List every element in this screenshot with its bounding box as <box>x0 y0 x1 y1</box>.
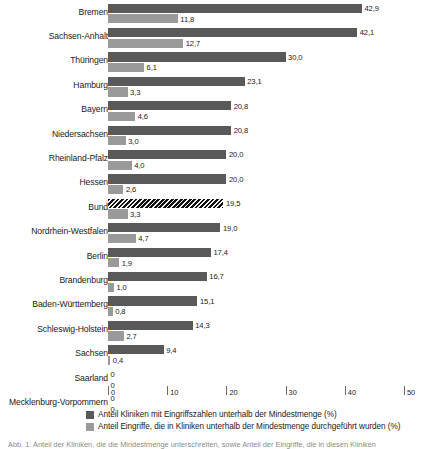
tick-label: 30 <box>289 389 297 397</box>
category-label: Bund <box>0 202 108 212</box>
category-label: Sachsen <box>0 348 108 358</box>
bar-value-label: 1,0 <box>116 283 126 292</box>
legend-label: Anteil Eingriffe, die in Kliniken unterh… <box>98 421 400 432</box>
chart-row: Sachsen9,40,4 <box>0 344 427 368</box>
bar-value-label: 3,0 <box>128 137 138 146</box>
tick-label: 50 <box>407 389 415 397</box>
bar-value-label: 20,0 <box>229 150 243 159</box>
bar-series-b <box>108 14 178 23</box>
bar-value-label: 11,8 <box>180 15 194 24</box>
tick-label: 40 <box>348 389 356 397</box>
chart-row: Nordrhein-Westfalen19,04,7 <box>0 222 427 246</box>
bar-chart: Bremen42,911,8Sachsen-Anhalt42,112,7Thür… <box>0 0 427 449</box>
bar-series-a <box>108 248 211 257</box>
bar-series-a <box>108 321 193 330</box>
tick-mark <box>108 386 109 395</box>
bar-series-a <box>108 174 226 183</box>
bar-value-label: 19,0 <box>223 224 237 233</box>
tick-label: 10 <box>170 389 178 397</box>
bar-value-label: 20,8 <box>234 102 248 111</box>
bar-series-a <box>108 345 164 354</box>
bar-value-label: 4,0 <box>134 161 144 170</box>
category-label: Saarland <box>0 373 108 383</box>
chart-row: Hessen20,02,6 <box>0 173 427 197</box>
legend-swatch-icon <box>86 411 94 419</box>
bar-series-a <box>108 52 286 61</box>
chart-row: Bund19,53,3 <box>0 197 427 221</box>
bar-series-a <box>108 28 357 37</box>
bar-value-label: 12,7 <box>186 39 200 48</box>
chart-row: Sachsen-Anhalt42,112,7 <box>0 26 427 50</box>
tick-mark <box>404 386 405 395</box>
chart-row: Berlin17,41,9 <box>0 246 427 270</box>
bar-value-label: 0 <box>111 370 115 379</box>
bar-value-label: 15,1 <box>200 297 214 306</box>
chart-row: Hamburg23,13,3 <box>0 75 427 99</box>
bar-value-label: 19,5 <box>226 199 240 208</box>
bar-series-b <box>108 283 114 292</box>
chart-row: Rheinland-Pfalz20,04,0 <box>0 148 427 172</box>
category-label: Nordrhein-Westfalen <box>0 226 108 236</box>
bar-series-b <box>108 209 128 218</box>
bar-value-label: 42,9 <box>364 4 378 13</box>
bar-series-b <box>108 87 128 96</box>
category-label: Brandenburg <box>0 275 108 285</box>
bar-series-b <box>108 112 135 121</box>
tick-label: 0 <box>111 389 115 397</box>
category-label: Bayern <box>0 104 108 114</box>
bar-series-a <box>108 4 362 13</box>
chart-legend: Anteil Kliniken mit Eingriffszahlen unte… <box>86 409 416 434</box>
bar-series-b <box>108 63 144 72</box>
tick-mark <box>226 386 227 395</box>
bar-value-label: 4,7 <box>138 234 148 243</box>
bar-series-b <box>108 356 110 365</box>
bar-value-label: 17,4 <box>214 248 228 257</box>
bar-series-b <box>108 161 132 170</box>
bar-value-label: 6,1 <box>147 63 157 72</box>
bar-value-label: 30,0 <box>288 53 302 62</box>
bar-value-label: 20,0 <box>229 175 243 184</box>
bar-value-label: 14,3 <box>195 321 209 330</box>
bar-series-a <box>108 199 223 208</box>
tick-label: 20 <box>229 389 237 397</box>
x-axis: 01020304050 <box>0 386 427 406</box>
chart-row: Niedersachsen20,83,0 <box>0 124 427 148</box>
bar-value-label: 3,3 <box>130 210 140 219</box>
chart-row: Baden-Württemberg15,10,8 <box>0 295 427 319</box>
bar-series-a <box>108 77 245 86</box>
bar-value-label: 1,9 <box>122 259 132 268</box>
category-label: Hamburg <box>0 80 108 90</box>
bar-series-a <box>108 126 231 135</box>
legend-label: Anteil Kliniken mit Eingriffszahlen unte… <box>98 409 337 420</box>
bar-value-label: 2,7 <box>126 332 136 341</box>
category-label: Rheinland-Pfalz <box>0 153 108 163</box>
bar-series-b <box>108 307 113 316</box>
category-label: Baden-Württemberg <box>0 299 108 309</box>
legend-item: Anteil Kliniken mit Eingriffszahlen unte… <box>86 409 416 420</box>
bar-value-label: 16,7 <box>209 272 223 281</box>
category-label: Berlin <box>0 251 108 261</box>
category-label: Hessen <box>0 177 108 187</box>
bar-value-label: 23,1 <box>247 77 261 86</box>
bar-value-label: 0,4 <box>113 356 123 365</box>
chart-row: Bayern20,84,6 <box>0 100 427 124</box>
category-label: Bremen <box>0 7 108 17</box>
bar-series-a <box>108 272 207 281</box>
chart-row: Brandenburg16,71,0 <box>0 270 427 294</box>
category-label: Schleswig-Holstein <box>0 324 108 334</box>
category-label: Thüringen <box>0 55 108 65</box>
bar-value-label: 20,8 <box>234 126 248 135</box>
tick-mark <box>286 386 287 395</box>
tick-mark <box>345 386 346 395</box>
chart-row: Schleswig-Holstein14,32,7 <box>0 319 427 343</box>
chart-row: Bremen42,911,8 <box>0 2 427 26</box>
figure-caption: Abb. 1: Anteil der Kliniken, die die Min… <box>8 440 423 449</box>
bar-series-a <box>108 150 226 159</box>
bar-series-b <box>108 234 136 243</box>
bar-value-label: 2,6 <box>126 185 136 194</box>
bar-series-b <box>108 185 123 194</box>
bar-series-a <box>108 101 231 110</box>
category-label: Niedersachsen <box>0 129 108 139</box>
chart-row: Thüringen30,06,1 <box>0 51 427 75</box>
legend-item: Anteil Eingriffe, die in Kliniken unterh… <box>86 421 416 432</box>
